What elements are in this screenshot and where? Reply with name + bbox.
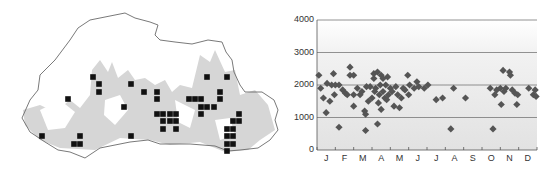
occurrence-marker bbox=[236, 111, 242, 117]
occurrence-marker bbox=[96, 81, 102, 87]
occurrence-marker bbox=[96, 89, 102, 95]
occurrence-marker bbox=[217, 89, 223, 95]
occurrence-marker bbox=[224, 148, 230, 154]
occurrence-marker bbox=[224, 126, 230, 132]
occurrence-marker bbox=[154, 96, 160, 102]
occurrence-marker bbox=[173, 126, 179, 132]
occurrence-marker bbox=[198, 111, 204, 117]
x-tick-label: M bbox=[393, 153, 407, 163]
scatter-plot bbox=[290, 0, 555, 173]
occurrence-marker bbox=[173, 118, 179, 124]
occurrence-marker bbox=[167, 118, 173, 124]
x-tick-label: A bbox=[448, 153, 462, 163]
x-tick-label: D bbox=[521, 153, 535, 163]
occurrence-marker bbox=[198, 96, 204, 102]
y-tick-label: 4000 bbox=[288, 14, 314, 24]
occurrence-marker bbox=[198, 104, 204, 110]
occurrence-marker bbox=[224, 133, 230, 139]
x-tick-label: M bbox=[356, 153, 370, 163]
occurrence-marker bbox=[230, 118, 236, 124]
occurrence-marker bbox=[154, 89, 160, 95]
y-tick-label: 2000 bbox=[288, 79, 314, 89]
bhutan-distribution-map bbox=[0, 0, 290, 173]
occurrence-marker bbox=[167, 111, 173, 117]
x-tick-label: F bbox=[338, 153, 352, 163]
occurrence-marker bbox=[192, 96, 198, 102]
occurrence-marker bbox=[204, 104, 210, 110]
occurrence-marker bbox=[71, 141, 77, 147]
x-tick-label: N bbox=[503, 153, 517, 163]
x-tick-label: J bbox=[319, 153, 333, 163]
occurrence-marker bbox=[224, 141, 230, 147]
occurrence-marker bbox=[77, 133, 83, 139]
occurrence-marker bbox=[230, 133, 236, 139]
occurrence-marker bbox=[236, 118, 242, 124]
x-tick-label: O bbox=[484, 153, 498, 163]
occurrence-marker bbox=[65, 96, 71, 102]
occurrence-marker bbox=[224, 74, 230, 80]
occurrence-marker bbox=[77, 141, 83, 147]
occurrence-marker bbox=[160, 118, 166, 124]
x-tick-label: J bbox=[411, 153, 425, 163]
y-tick-label: 1000 bbox=[288, 112, 314, 122]
occurrence-marker bbox=[204, 74, 210, 80]
occurrence-marker bbox=[128, 81, 134, 87]
occurrence-marker bbox=[160, 126, 166, 132]
occurrence-marker bbox=[39, 133, 45, 139]
x-tick-label: S bbox=[466, 153, 480, 163]
y-tick-label: 3000 bbox=[288, 47, 314, 57]
occurrence-marker bbox=[128, 133, 134, 139]
occurrence-marker bbox=[230, 126, 236, 132]
elevation-by-month-chart: 01000200030004000 JFMAMJJASOND bbox=[290, 0, 555, 173]
x-tick-label: A bbox=[374, 153, 388, 163]
occurrence-marker bbox=[217, 96, 223, 102]
occurrence-marker bbox=[141, 89, 147, 95]
occurrence-marker bbox=[211, 104, 217, 110]
occurrence-marker bbox=[154, 111, 160, 117]
occurrence-marker bbox=[186, 96, 192, 102]
y-tick-label: 0 bbox=[288, 144, 314, 154]
occurrence-marker bbox=[173, 111, 179, 117]
occurrence-marker bbox=[230, 141, 236, 147]
occurrence-marker bbox=[121, 104, 127, 110]
x-tick-label: J bbox=[429, 153, 443, 163]
occurrence-marker bbox=[90, 74, 96, 80]
occurrence-marker bbox=[160, 111, 166, 117]
